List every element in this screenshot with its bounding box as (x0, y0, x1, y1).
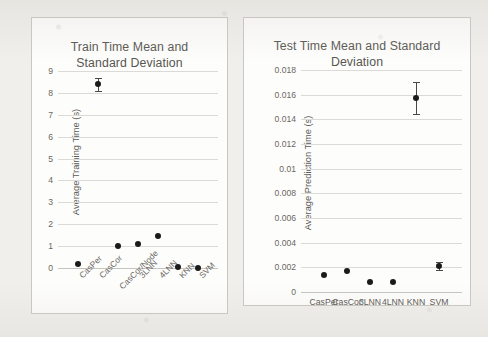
data-point-marker (413, 95, 419, 101)
chart-title-line-2: Standard Deviation (32, 56, 227, 72)
y-axis-tick-label: 0.008 (258, 189, 296, 198)
gridline (58, 180, 218, 181)
x-axis-tick-label: 4LNN (382, 297, 404, 307)
y-axis-tick-label: 0.016 (258, 91, 296, 100)
error-bar-cap (95, 78, 102, 79)
error-bar-cap (95, 91, 102, 92)
y-axis-tick-label: 7 (31, 111, 53, 120)
data-point-marker (95, 81, 101, 87)
data-point-marker (390, 279, 396, 285)
y-axis-tick-label: 0 (258, 288, 296, 297)
x-axis-tick-label: 3LNN (359, 297, 381, 307)
error-bar-cap (413, 82, 420, 83)
data-point-marker (155, 233, 161, 239)
error-bar-cap (436, 270, 443, 271)
gridline (58, 224, 218, 225)
gridline (58, 93, 218, 94)
gridline (301, 169, 462, 170)
y-axis-tick-label: 0 (31, 264, 53, 273)
x-axis-tick-label: KNN (407, 297, 425, 307)
y-axis-tick-label: 9 (31, 67, 53, 76)
plot-area-test-time: Average Prediction Time (s) 00.0020.0040… (301, 70, 462, 292)
data-point-marker (344, 268, 350, 274)
data-point-marker (321, 272, 327, 278)
y-axis-tick-label: 0.002 (258, 263, 296, 272)
gridline (301, 193, 462, 194)
chart-title-train-time: Train Time Mean and Standard Deviation (32, 40, 227, 71)
gridline (301, 119, 462, 120)
y-axis-tick-label: 2 (31, 220, 53, 229)
gridline (58, 202, 218, 203)
gridline (58, 159, 218, 160)
gridline (301, 70, 462, 71)
data-point-marker (367, 279, 373, 285)
x-axis-tick-label: SVM (430, 297, 449, 307)
chart-title-line-1: Test Time Mean and Standard (244, 39, 470, 55)
gridline (301, 292, 462, 293)
gridline (58, 71, 218, 72)
data-point-marker (115, 243, 121, 249)
y-axis-tick-label: 8 (31, 89, 53, 98)
y-axis-tick-label: 6 (31, 133, 53, 142)
y-axis-tick-label: 0.006 (258, 214, 296, 223)
y-axis-label-test-time: Average Prediction Time (s) (303, 98, 313, 248)
plot-area-train-time: Average Training Time (s) 0123456789CasP… (58, 71, 218, 268)
gridline (58, 115, 218, 116)
gridline (301, 144, 462, 145)
y-axis-tick-label: 1 (31, 242, 53, 251)
y-axis-label-train-time: Average Training Time (s) (71, 102, 81, 222)
gridline (301, 243, 462, 244)
y-axis-tick-label: 0.018 (258, 66, 296, 75)
gridline (301, 95, 462, 96)
gridline (301, 218, 462, 219)
y-axis-tick-label: 3 (31, 198, 53, 207)
y-axis-tick-label: 0.014 (258, 115, 296, 124)
y-axis-tick-label: 0.01 (258, 165, 296, 174)
y-axis-tick-label: 4 (31, 176, 53, 185)
y-axis-tick-label: 0.004 (258, 239, 296, 248)
x-axis-tick-label: CasCor (332, 297, 361, 307)
chart-title-line-1: Train Time Mean and (32, 40, 227, 56)
error-bar-cap (413, 114, 420, 115)
data-point-marker (75, 261, 81, 267)
data-point-marker (135, 241, 141, 247)
y-axis-tick-label: 0.012 (258, 140, 296, 149)
y-axis-tick-label: 5 (31, 155, 53, 164)
gridline (58, 137, 218, 138)
